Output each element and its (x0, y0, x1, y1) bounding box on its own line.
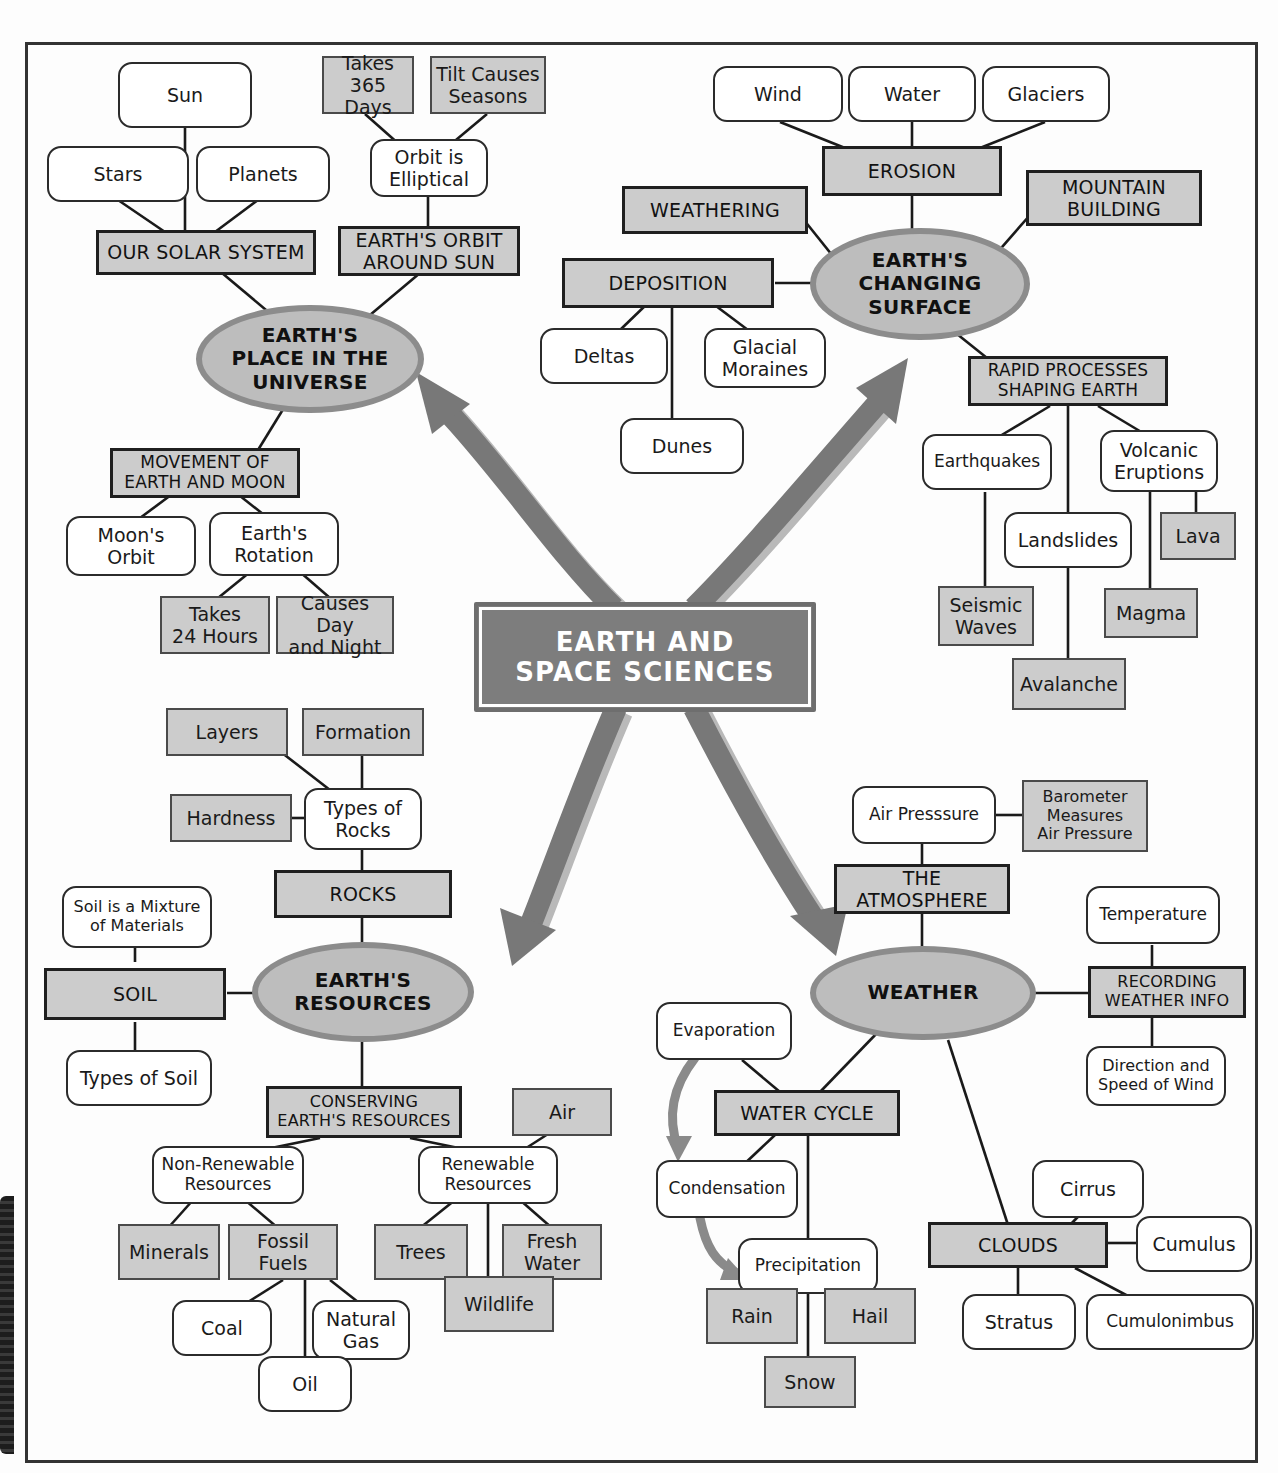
node-layers[interactable]: Layers (166, 708, 288, 756)
node-types-of-rocks[interactable]: Types ofRocks (304, 788, 422, 850)
node-tilt-causes-seasons[interactable]: Tilt CausesSeasons (430, 56, 546, 114)
node-volcanic-eruptions[interactable]: VolcanicEruptions (1100, 430, 1218, 492)
node-weathering[interactable]: WEATHERING (622, 186, 808, 234)
node-rapid-processes-shaping-earth[interactable]: RAPID PROCESSESSHAPING EARTH (968, 356, 1168, 406)
node-soil[interactable]: SOIL (44, 968, 226, 1020)
node-our-solar-system[interactable]: OUR SOLAR SYSTEM (96, 230, 316, 275)
node-rocks[interactable]: ROCKS (274, 870, 452, 918)
node-wind[interactable]: Wind (713, 66, 843, 122)
node-rain[interactable]: Rain (706, 1288, 798, 1344)
scan-edge-artifact (0, 1196, 14, 1454)
node-dunes[interactable]: Dunes (620, 418, 744, 474)
node-glaciers[interactable]: Glaciers (982, 66, 1110, 122)
node-conserving-earths-resources[interactable]: CONSERVINGEARTH'S RESOURCES (266, 1086, 462, 1138)
node-the-atmosphere[interactable]: THEATMOSPHERE (834, 864, 1010, 914)
node-evaporation[interactable]: Evaporation (656, 1002, 792, 1060)
node-temperature[interactable]: Temperature (1086, 886, 1220, 944)
node-renewable-resources[interactable]: RenewableResources (418, 1146, 558, 1204)
node-deltas[interactable]: Deltas (540, 328, 668, 384)
node-movement-of-earth-and-moon[interactable]: MOVEMENT OFEARTH AND MOON (110, 448, 300, 498)
node-oil[interactable]: Oil (258, 1356, 352, 1412)
node-fossil-fuels[interactable]: FossilFuels (228, 1224, 338, 1280)
node-deposition[interactable]: DEPOSITION (562, 258, 774, 308)
node-mountain-building[interactable]: MOUNTAINBUILDING (1026, 170, 1202, 226)
node-recording-weather-info[interactable]: RECORDINGWEATHER INFO (1088, 966, 1246, 1018)
concept-map-page: .ln{stroke:#1a1a1a;stroke-width:2.6;fill… (0, 0, 1278, 1473)
node-cumulus[interactable]: Cumulus (1136, 1216, 1252, 1272)
node-cumulonimbus[interactable]: Cumulonimbus (1086, 1294, 1254, 1350)
hub-earths-changing-surface[interactable]: EARTH'SCHANGINGSURFACE (810, 228, 1030, 340)
node-trees[interactable]: Trees (374, 1224, 468, 1280)
node-glacial-moraines[interactable]: GlacialMoraines (704, 328, 826, 388)
node-condensation[interactable]: Condensation (656, 1160, 798, 1218)
node-snow[interactable]: Snow (764, 1356, 856, 1408)
node-moons-orbit[interactable]: Moon'sOrbit (66, 516, 196, 576)
node-minerals[interactable]: Minerals (118, 1224, 220, 1280)
node-seismic-waves[interactable]: SeismicWaves (938, 586, 1034, 646)
node-natural-gas[interactable]: NaturalGas (312, 1300, 410, 1360)
node-precipitation[interactable]: Precipitation (738, 1238, 878, 1294)
node-magma[interactable]: Magma (1104, 588, 1198, 638)
node-earths-orbit-around-sun[interactable]: EARTH'S ORBITAROUND SUN (338, 226, 520, 276)
node-takes-365-days[interactable]: Takes365 Days (322, 56, 414, 114)
node-earths-rotation[interactable]: Earth'sRotation (209, 512, 339, 576)
node-causes-day-and-night[interactable]: Causes Dayand Night (276, 596, 394, 654)
hub-weather[interactable]: WEATHER (810, 946, 1036, 1040)
node-types-of-soil[interactable]: Types of Soil (66, 1050, 212, 1106)
node-water-cycle[interactable]: WATER CYCLE (714, 1090, 900, 1136)
node-coal[interactable]: Coal (172, 1300, 272, 1356)
node-sun[interactable]: Sun (118, 62, 252, 128)
node-lava[interactable]: Lava (1160, 512, 1236, 560)
node-earthquakes[interactable]: Earthquakes (922, 434, 1052, 490)
node-formation[interactable]: Formation (302, 708, 424, 756)
center-title-earth-and-space-sciences: EARTH ANDSPACE SCIENCES (474, 602, 816, 712)
node-air[interactable]: Air (512, 1088, 612, 1136)
node-stars[interactable]: Stars (47, 146, 189, 202)
node-orbit-is-elliptical[interactable]: Orbit isElliptical (370, 139, 488, 197)
node-avalanche[interactable]: Avalanche (1012, 658, 1126, 710)
node-clouds[interactable]: CLOUDS (928, 1222, 1108, 1268)
node-landslides[interactable]: Landslides (1004, 512, 1132, 568)
hub-earths-place-in-the-universe[interactable]: EARTH'SPLACE IN THEUNIVERSE (196, 305, 424, 413)
node-barometer-measures-air-pressure[interactable]: BarometerMeasuresAir Pressure (1022, 780, 1148, 852)
node-fresh-water[interactable]: FreshWater (502, 1224, 602, 1280)
node-direction-and-speed-of-wind[interactable]: Direction andSpeed of Wind (1086, 1046, 1226, 1106)
hub-earths-resources[interactable]: EARTH'SRESOURCES (252, 942, 474, 1042)
node-wildlife[interactable]: Wildlife (444, 1276, 554, 1332)
node-hail[interactable]: Hail (824, 1288, 916, 1344)
node-erosion[interactable]: EROSION (822, 146, 1002, 196)
node-takes-24-hours[interactable]: Takes24 Hours (160, 596, 270, 654)
node-water[interactable]: Water (848, 66, 976, 122)
node-soil-is-a-mixture-of-materials[interactable]: Soil is a Mixtureof Materials (62, 886, 212, 948)
node-non-renewable-resources[interactable]: Non-RenewableResources (152, 1146, 304, 1204)
node-stratus[interactable]: Stratus (962, 1294, 1076, 1350)
node-hardness[interactable]: Hardness (170, 794, 292, 842)
node-planets[interactable]: Planets (196, 146, 330, 202)
node-air-pressure[interactable]: Air Presssure (852, 786, 996, 844)
node-cirrus[interactable]: Cirrus (1032, 1160, 1144, 1218)
